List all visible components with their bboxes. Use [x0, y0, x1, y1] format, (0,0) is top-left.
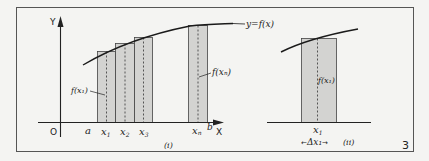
panel-ii: f(x₁) x1 ←Δx₁→ (ii)	[267, 29, 371, 147]
x1-label: x1	[313, 124, 322, 136]
origin-label: O	[50, 127, 57, 137]
riemann-sum-diagram: Y X O a x1 x2 x3 xn b f(x₁) f(xₙ) y=f(x)…	[0, 0, 429, 161]
annotation-f-x1: f(x₁)	[70, 86, 88, 95]
tick-label-a: a	[85, 125, 91, 136]
panel-i: Y X O a x1 x2 x3 xn b f(x₁) f(xₙ) y=f(x)…	[38, 16, 275, 150]
annotation-f-xn: f(xₙ)	[211, 67, 232, 77]
curve-label-leader	[233, 24, 245, 25]
tick-label-x2: x2	[120, 126, 130, 138]
x-axis-arrow-icon	[213, 120, 224, 126]
tick-label-x1: x1	[101, 126, 110, 138]
bar-2	[116, 44, 135, 123]
arrow-right-icon: →	[322, 139, 328, 147]
delta-x-label: ←Δx₁→	[301, 137, 328, 147]
height-label: f(x₁)	[317, 76, 335, 85]
x-axis-label: X	[216, 127, 222, 137]
tick-label-b: b	[207, 122, 213, 132]
panel-ii-label: (ii)	[343, 138, 354, 147]
panel-i-label: (i)	[164, 141, 173, 150]
bar-3	[135, 38, 153, 123]
figure-number: 3	[402, 139, 409, 152]
tick-label-x3: x3	[139, 126, 149, 138]
bar-n	[189, 26, 208, 123]
bar-1	[98, 52, 116, 123]
curve-label: y=f(x)	[245, 19, 275, 29]
y-axis-arrow-icon	[58, 16, 64, 27]
tick-label-xn: xn	[192, 125, 202, 136]
y-axis-label: Y	[49, 17, 56, 27]
